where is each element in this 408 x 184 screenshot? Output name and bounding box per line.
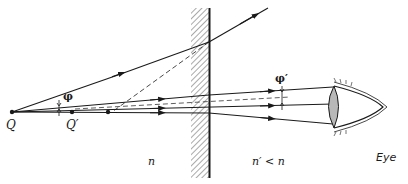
image-point-q-prime — [70, 110, 74, 114]
reference-dashed-line — [75, 97, 290, 109]
label-phi: φ — [63, 91, 73, 102]
eye — [329, 78, 388, 136]
image-point-secondary — [106, 110, 110, 114]
angle-phi-prime-marker — [280, 86, 284, 110]
label-medium-n: n — [148, 156, 155, 167]
label-q-prime: Q′ — [66, 119, 79, 131]
refracting-plate — [191, 8, 210, 178]
label-q: Q — [6, 119, 16, 131]
upper-ray — [12, 8, 268, 112]
label-eye: Eye — [376, 152, 396, 163]
eye-lens-icon — [329, 86, 339, 128]
label-phi-prime: φ′ — [275, 73, 288, 84]
paraxial-rays — [12, 87, 333, 124]
ray-diagram — [0, 0, 408, 184]
eyeball-outline — [334, 86, 383, 128]
object-point-q — [10, 110, 14, 114]
plate-hatching — [191, 8, 209, 178]
label-medium-n-prime: n′ < n — [252, 156, 285, 167]
